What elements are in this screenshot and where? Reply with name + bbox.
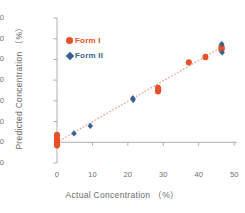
x-axis-title: Actual Concentration （%） — [0, 188, 245, 200]
data-point — [88, 123, 93, 129]
x-axis-tick-label: 40 — [187, 170, 211, 179]
data-point — [186, 59, 192, 65]
scatter-chart-figure: -100102030405060 01020304050 Form IForm … — [0, 0, 245, 213]
y-axis-tick-label: 60 — [0, 13, 4, 22]
chart-legend: Form IForm II — [66, 33, 103, 63]
y-axis-tick-label: 20 — [0, 96, 4, 105]
legend-item[interactable]: Form II — [66, 48, 103, 63]
x-axis-tick-label: 20 — [116, 170, 140, 179]
legend-circle-icon — [66, 37, 73, 44]
y-axis-tick-label: 0 — [0, 137, 4, 146]
x-axis-tick-label: 30 — [151, 170, 175, 179]
y-axis-tick-label: 10 — [0, 117, 4, 126]
legend-diamond-icon — [65, 51, 73, 59]
data-point — [155, 88, 161, 94]
y-axis-tick-label: -10 — [0, 158, 4, 167]
x-axis-tick-label: 10 — [80, 170, 104, 179]
legend-label: Form I — [75, 36, 101, 45]
y-axis-tick-label: 50 — [0, 34, 4, 43]
x-axis-tick-label: 50 — [222, 170, 245, 179]
data-point — [54, 142, 60, 148]
y-axis-tick-label: 30 — [0, 75, 4, 84]
y-axis-title: Predicted Concentration （%） — [12, 6, 24, 166]
data-point — [202, 54, 208, 60]
legend-label: Form II — [75, 51, 103, 60]
legend-item[interactable]: Form I — [66, 33, 103, 48]
x-axis-tick-label: 0 — [45, 170, 69, 179]
data-point — [71, 130, 76, 136]
y-axis-tick-label: 40 — [0, 54, 4, 63]
